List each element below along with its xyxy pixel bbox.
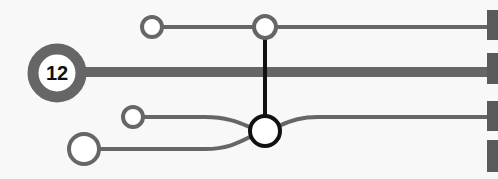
branch-lower-line [98, 136, 252, 149]
terminal-bar-4 [487, 140, 498, 172]
diagram-canvas: 12 [0, 0, 498, 179]
terminal-bar-3 [487, 101, 498, 131]
hub-station[interactable]: 12 [33, 49, 81, 97]
terminal-bar-2 [487, 53, 498, 84]
branch-upper-line [143, 117, 252, 128]
station-branch-upper[interactable] [123, 107, 143, 127]
station-junction-transfer[interactable] [250, 116, 280, 146]
station-top-left[interactable] [142, 17, 162, 37]
merged-line [279, 117, 490, 126]
terminal-bar-1 [487, 10, 498, 40]
station-branch-lower[interactable] [69, 134, 99, 164]
transit-diagram: 12 [0, 0, 498, 179]
hub-label: 12 [46, 62, 68, 84]
station-top-transfer[interactable] [254, 16, 276, 38]
